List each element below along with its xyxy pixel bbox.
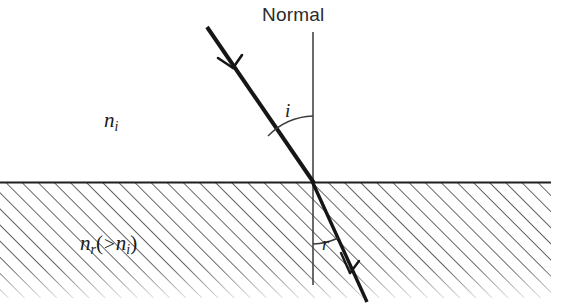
lower-medium-open-paren: ( (96, 231, 103, 255)
incident-ray (207, 27, 314, 183)
angle-of-refraction-label: r (322, 234, 329, 255)
upper-medium-label: ni (104, 108, 118, 135)
normal-label: Normal (262, 4, 324, 26)
refraction-diagram: Normal i r ni nr(>ni) (0, 0, 566, 304)
lower-medium-close-paren: ) (130, 231, 137, 255)
lower-medium-relation: > (103, 233, 116, 254)
lower-medium-compare-symbol: n (116, 231, 127, 255)
lower-medium-label: nr(>ni) (80, 231, 137, 258)
angle-of-incidence-label: i (285, 100, 290, 122)
upper-medium-symbol: n (104, 108, 115, 132)
diagram-canvas (0, 0, 566, 304)
lower-medium-symbol: n (80, 231, 91, 255)
upper-medium-subscript: i (115, 119, 119, 134)
